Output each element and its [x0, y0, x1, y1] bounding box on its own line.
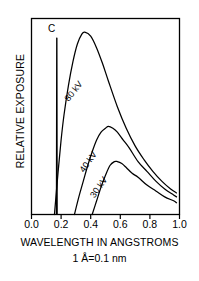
- curve-labels: 80 kV40 kV30 kV: [63, 79, 110, 200]
- curve-label-30-kv: 30 kV: [88, 175, 109, 200]
- x-tick-label-5: 1.0: [172, 218, 187, 230]
- x-tick-labels: 0.00.20.40.60.81.0: [0, 218, 199, 232]
- x-tick-label-0: 0.0: [24, 218, 39, 230]
- curve-40-kv: [74, 126, 176, 214]
- characteristic-line-label: C: [48, 23, 55, 34]
- curve-label-40-kv: 40 kV: [78, 150, 99, 175]
- x-tick-label-4: 0.8: [143, 218, 158, 230]
- curve-80-kv: [54, 32, 176, 214]
- curve-label-80-kv: 80 kV: [63, 79, 85, 103]
- x-tick-label-3: 0.6: [113, 218, 128, 230]
- spectrum-curves: [54, 32, 176, 214]
- xray-spectrum-figure: RELATIVE EXPOSURE 80 kV40 kV30 kV C 0.00…: [0, 0, 199, 281]
- x-tick-label-1: 0.2: [54, 218, 69, 230]
- x-tick-label-2: 0.4: [83, 218, 98, 230]
- curve-characteristic-spike: [56, 38, 57, 214]
- x-axis-sublabel: 1 Å=0.1 nm: [0, 252, 199, 264]
- x-axis-label: WAVELENGTH IN ANGSTROMS: [0, 236, 199, 248]
- annotations: C: [48, 23, 55, 34]
